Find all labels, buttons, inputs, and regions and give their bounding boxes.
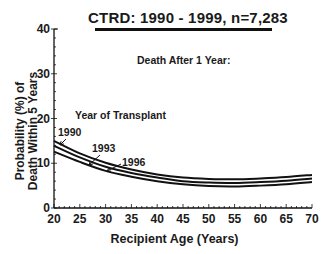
x-tick-label: 65 <box>280 212 294 226</box>
y-tick-label: 30 <box>37 67 51 81</box>
y-tick-label: 10 <box>37 156 51 170</box>
x-tick-label: 70 <box>305 212 319 226</box>
x-tick-label: 20 <box>47 212 61 226</box>
annotation-label-1996: 1996 <box>122 156 146 168</box>
x-tick-label: 45 <box>176 212 190 226</box>
plot-area: 0102030402025303540455055606570199019931… <box>0 0 329 254</box>
x-tick-label: 25 <box>73 212 87 226</box>
x-tick-label: 30 <box>99 212 113 226</box>
x-tick-label: 40 <box>151 212 165 226</box>
y-tick-label: 20 <box>37 112 51 126</box>
annotation-label-1993: 1993 <box>92 142 116 154</box>
x-tick-label: 60 <box>254 212 268 226</box>
x-tick-label: 55 <box>228 212 242 226</box>
annotation-label-1990: 1990 <box>58 126 82 138</box>
x-tick-label: 35 <box>125 212 139 226</box>
y-tick-label: 40 <box>37 22 51 36</box>
x-tick-label: 50 <box>202 212 216 226</box>
